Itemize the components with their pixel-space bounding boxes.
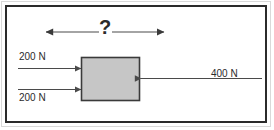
force-label-left-top: 200 N [19, 51, 46, 62]
force-label-left-bottom: 200 N [19, 92, 46, 103]
diagram-vector-layer [0, 0, 274, 130]
unknown-dimension-label: ? [99, 17, 111, 37]
force-label-right: 400 N [211, 68, 238, 79]
block-shape [82, 58, 140, 101]
diagram-canvas: ? 200 N 200 N 400 N [0, 0, 274, 130]
